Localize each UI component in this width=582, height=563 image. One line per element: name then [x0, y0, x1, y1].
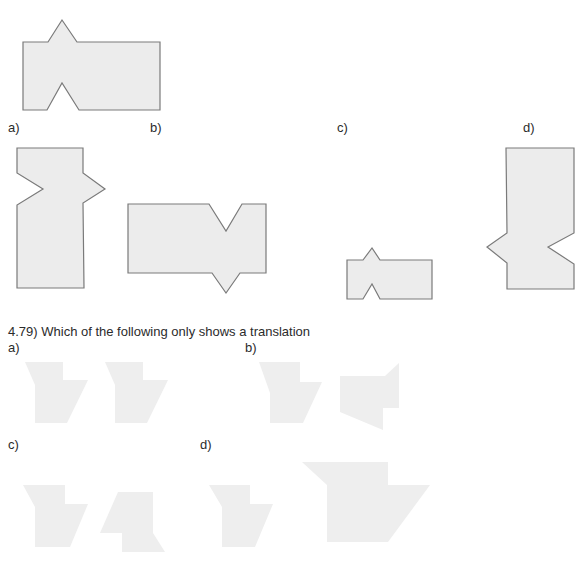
- original-shape: [23, 20, 160, 110]
- q79-a-shape-original: [25, 362, 88, 423]
- option-d-shape: [487, 148, 574, 289]
- option-a-shape: [17, 148, 105, 288]
- q79-option-b-label: b): [245, 340, 257, 355]
- q79-option-d-label: d): [200, 437, 212, 452]
- q79-b-shape-image: [340, 363, 399, 430]
- q79-b-shape-original: [259, 362, 322, 423]
- option-c-label: c): [337, 120, 348, 135]
- q79-c-shape-original: [23, 485, 88, 547]
- q79-c-shape-image: [100, 492, 165, 552]
- q79-option-a-label: a): [8, 340, 20, 355]
- q79-option-c-label: c): [8, 437, 19, 452]
- q79-a-shape-image: [105, 362, 168, 423]
- option-d-label: d): [523, 120, 535, 135]
- option-b-label: b): [150, 120, 162, 135]
- q79-d-shape-image: [302, 462, 430, 542]
- question-prompt: 4.79) Which of the following only shows …: [8, 324, 310, 339]
- q79-d-shape-original: [209, 485, 273, 547]
- option-c-shape: [347, 248, 432, 299]
- option-b-shape: [128, 204, 266, 293]
- figure-canvas: [0, 0, 582, 563]
- option-a-label: a): [8, 120, 20, 135]
